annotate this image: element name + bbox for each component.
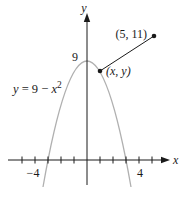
y-axis-label: y	[80, 1, 87, 15]
y-value-9-label: 9	[72, 50, 78, 64]
figure-canvas: y x 9 −4 4 y = 9 − x2 (5, 11) (x, y)	[0, 0, 190, 201]
x-axis-label: x	[172, 153, 179, 167]
equation-exponent: 2	[57, 80, 62, 90]
point-5-11-label: (5, 11)	[115, 27, 147, 41]
y-axis	[84, 13, 90, 185]
equation-mid: = 9 −	[19, 82, 52, 96]
point-xy-label: (x, y)	[106, 64, 131, 78]
x-axis-arrowhead-icon	[161, 157, 170, 163]
x-tick-label-neg4: −4	[27, 166, 40, 180]
point-5-11-dot	[152, 34, 157, 39]
x-tick-label-pos4: 4	[137, 166, 143, 180]
equation-label: y = 9 − x2	[11, 80, 62, 96]
x-axis	[8, 157, 170, 164]
point-xy-dot	[98, 69, 103, 74]
math-figure: y x 9 −4 4 y = 9 − x2 (5, 11) (x, y)	[0, 0, 190, 201]
